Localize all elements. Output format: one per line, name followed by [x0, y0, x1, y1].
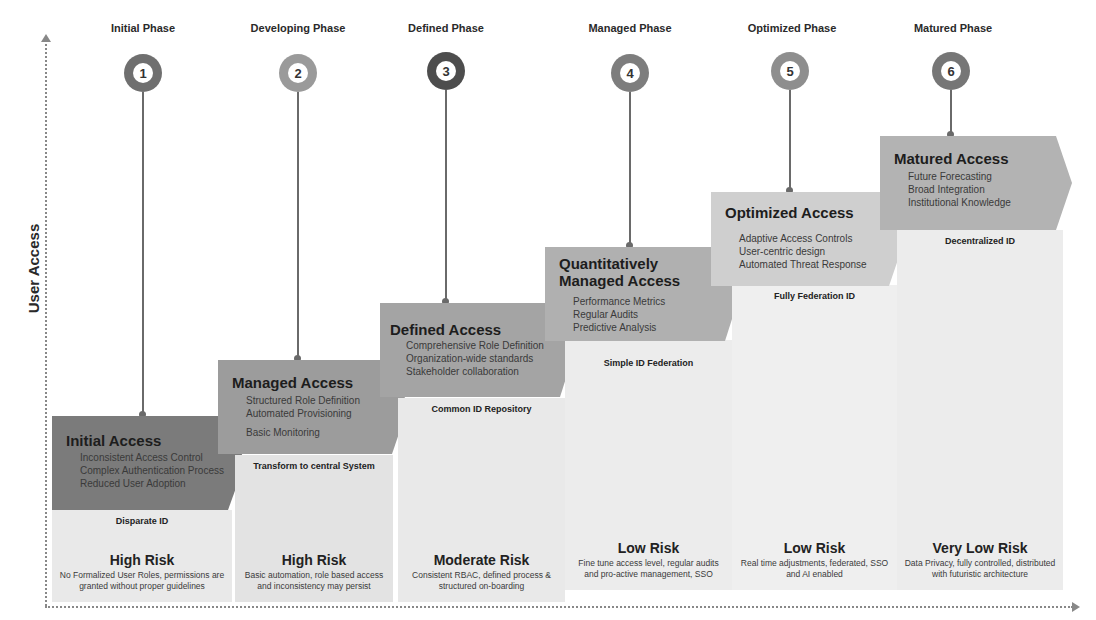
- id-label: Disparate ID: [52, 516, 232, 526]
- risk-description: Data Privacy, fully controlled, distribu…: [903, 558, 1057, 580]
- risk-block: High Risk Basic automation, role based a…: [241, 552, 387, 592]
- chevron-title: Initial Access: [66, 432, 161, 449]
- phase-detail-panel: Common ID Repository Moderate Risk Consi…: [398, 398, 565, 602]
- chevron-item: Future Forecasting: [908, 170, 1011, 183]
- phase-chevron: Matured Access Future Forecasting Broad …: [880, 136, 1072, 230]
- chevron-item: Structured Role Definition: [246, 394, 360, 407]
- connector-stem: [629, 92, 631, 245]
- risk-description: Real time adjustments, federated, SSO an…: [738, 558, 891, 580]
- chevron-title: Optimized Access: [725, 204, 854, 221]
- phase-number: 3: [436, 61, 456, 81]
- connector-stem: [950, 90, 952, 134]
- risk-description: No Formalized User Roles, permissions ar…: [58, 570, 226, 592]
- phase-number: 6: [941, 61, 961, 81]
- chevron-title: Defined Access: [390, 321, 501, 338]
- chevron-item: Performance Metrics: [573, 295, 665, 308]
- phase-number: 1: [133, 63, 153, 83]
- phase-label: Managed Phase: [550, 22, 710, 34]
- id-label: Decentralized ID: [897, 236, 1063, 246]
- phase-number-badge: 3: [427, 52, 465, 90]
- risk-title: High Risk: [58, 552, 226, 568]
- risk-description: Consistent RBAC, defined process & struc…: [404, 570, 559, 592]
- id-label: Fully Federation ID: [732, 291, 897, 301]
- chevron-item: Stakeholder collaboration: [406, 365, 544, 378]
- chevron-item-list: Adaptive Access Controls User-centric de…: [739, 232, 867, 271]
- risk-title: High Risk: [241, 552, 387, 568]
- risk-block: Moderate Risk Consistent RBAC, defined p…: [404, 552, 559, 592]
- chevron-item: Organization-wide standards: [406, 352, 544, 365]
- chevron-item: Regular Audits: [573, 308, 665, 321]
- risk-block: Low Risk Fine tune access level, regular…: [571, 540, 726, 580]
- risk-title: Low Risk: [571, 540, 726, 556]
- phase-label: Optimized Phase: [712, 22, 872, 34]
- chevron-item-list: Future Forecasting Broad Integration Ins…: [908, 170, 1011, 209]
- phase-detail-panel: Simple ID Federation Low Risk Fine tune …: [565, 340, 732, 590]
- phase-label: Developing Phase: [218, 22, 378, 34]
- chevron-item: Institutional Knowledge: [908, 196, 1011, 209]
- connector-stem: [789, 90, 791, 190]
- phase-number-badge: 1: [124, 54, 162, 92]
- chevron-item: Basic Monitoring: [246, 426, 360, 439]
- phase-number-badge: 4: [611, 54, 649, 92]
- risk-block: Low Risk Real time adjustments, federate…: [738, 540, 891, 580]
- y-axis-arrow-icon: [41, 34, 51, 42]
- id-label: Transform to central System: [235, 461, 393, 471]
- phase-number-badge: 5: [771, 52, 809, 90]
- chevron-title: Matured Access: [894, 150, 1009, 167]
- chevron-title: Quantitatively Managed Access: [559, 255, 719, 289]
- chevron-item: Automated Provisioning: [246, 407, 360, 420]
- chevron-title: Managed Access: [232, 374, 353, 391]
- chevron-item-list: Performance Metrics Regular Audits Predi…: [573, 295, 665, 334]
- phase-detail-panel: Fully Federation ID Low Risk Real time a…: [732, 285, 897, 590]
- phase-label: Defined Phase: [366, 22, 526, 34]
- phase-number-badge: 6: [932, 52, 970, 90]
- phase-label: Initial Phase: [63, 22, 223, 34]
- phase-number: 4: [620, 63, 640, 83]
- risk-block: High Risk No Formalized User Roles, perm…: [58, 552, 226, 592]
- chevron-item: Broad Integration: [908, 183, 1011, 196]
- chevron-item: User-centric design: [739, 245, 867, 258]
- chevron-item-list: Comprehensive Role Definition Organizati…: [406, 339, 544, 378]
- risk-title: Moderate Risk: [404, 552, 559, 568]
- connector-stem: [445, 90, 447, 301]
- id-label: Common ID Repository: [398, 404, 565, 414]
- chevron-item-list: Inconsistent Access Control Complex Auth…: [80, 451, 224, 490]
- connector-stem: [142, 92, 144, 414]
- phase-number-badge: 2: [279, 54, 317, 92]
- phase-detail-panel: Disparate ID High Risk No Formalized Use…: [52, 510, 232, 602]
- chevron-item: Predictive Analysis: [573, 321, 665, 334]
- chevron-item: Comprehensive Role Definition: [406, 339, 544, 352]
- y-axis: [45, 40, 47, 606]
- chevron-item: Automated Threat Response: [739, 258, 867, 271]
- id-label: Simple ID Federation: [565, 358, 732, 368]
- phase-chevron: Initial Access Inconsistent Access Contr…: [52, 416, 245, 510]
- phase-label: Matured Phase: [873, 22, 1033, 34]
- chevron-item: Adaptive Access Controls: [739, 232, 867, 245]
- x-axis-arrow-icon: [1072, 602, 1080, 612]
- connector-stem: [297, 92, 299, 358]
- risk-description: Basic automation, role based access and …: [241, 570, 387, 592]
- x-axis: [45, 606, 1073, 608]
- chevron-item: Complex Authentication Process: [80, 464, 224, 477]
- phase-number: 2: [288, 63, 308, 83]
- chevron-item-list: Structured Role Definition Automated Pro…: [246, 394, 360, 439]
- y-axis-label: User Access: [25, 214, 42, 324]
- phase-detail-panel: Decentralized ID Very Low Risk Data Priv…: [897, 230, 1063, 590]
- risk-block: Very Low Risk Data Privacy, fully contro…: [903, 540, 1057, 580]
- phase-detail-panel: Transform to central System High Risk Ba…: [235, 455, 393, 602]
- chevron-item: Reduced User Adoption: [80, 477, 224, 490]
- phase-chevron: Optimized Access Adaptive Access Control…: [711, 192, 905, 286]
- risk-title: Low Risk: [738, 540, 891, 556]
- risk-description: Fine tune access level, regular audits a…: [571, 558, 726, 580]
- chevron-item: Inconsistent Access Control: [80, 451, 224, 464]
- phase-number: 5: [780, 61, 800, 81]
- risk-title: Very Low Risk: [903, 540, 1057, 556]
